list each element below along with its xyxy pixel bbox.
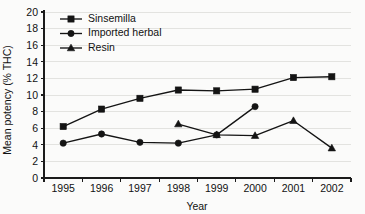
series-layer xyxy=(60,74,336,151)
series-line xyxy=(63,77,332,127)
marker-triangle xyxy=(290,117,297,124)
series-resin xyxy=(175,117,336,151)
y-tick-label: 16 xyxy=(26,39,38,51)
x-tick-label: 1995 xyxy=(52,182,76,194)
legend-label: Sinsemilla xyxy=(88,12,136,24)
x-axis: 19951996199719981999200020012002 xyxy=(44,178,351,194)
marker-square xyxy=(290,74,296,80)
potency-line-chart: 20181614121086420 1995199619971998199920… xyxy=(0,0,365,214)
y-tick-label: 0 xyxy=(32,172,38,184)
marker-triangle xyxy=(175,120,182,127)
marker-square xyxy=(175,87,181,93)
y-tick-label: 18 xyxy=(26,22,38,34)
y-tick-label: 6 xyxy=(32,122,38,134)
legend-entry: Resin xyxy=(60,41,115,53)
y-tick-label: 8 xyxy=(32,105,38,117)
y-tick-label: 14 xyxy=(26,56,38,68)
x-tick-label: 1999 xyxy=(205,182,229,194)
x-axis-title: Year xyxy=(186,200,208,212)
marker-square xyxy=(98,106,104,112)
legend-label: Resin xyxy=(88,41,115,53)
marker-triangle xyxy=(328,144,335,151)
marker-circle xyxy=(68,30,74,36)
x-tick-label: 2000 xyxy=(243,182,267,194)
marker-square xyxy=(214,88,220,94)
y-tick-label: 12 xyxy=(26,72,38,84)
legend-label: Imported herbal xyxy=(88,26,162,38)
marker-circle xyxy=(60,140,66,146)
y-tick-label: 4 xyxy=(32,139,38,151)
y-tick-label: 20 xyxy=(26,6,38,18)
x-tick-label: 1996 xyxy=(90,182,114,194)
marker-square xyxy=(329,74,335,80)
x-tick-label: 1997 xyxy=(128,182,152,194)
marker-circle xyxy=(175,140,181,146)
marker-circle xyxy=(137,139,143,145)
y-axis-title: Mean potency (% THC) xyxy=(1,45,13,155)
x-tick-label: 2002 xyxy=(320,182,344,194)
chart-legend: SinsemillaImported herbalResin xyxy=(60,12,162,53)
legend-entry: Sinsemilla xyxy=(60,12,136,24)
marker-square xyxy=(60,123,66,129)
y-tick-label: 10 xyxy=(26,89,38,101)
x-tick-label: 1998 xyxy=(167,182,191,194)
marker-square xyxy=(137,95,143,101)
marker-square xyxy=(68,16,74,22)
marker-circle xyxy=(98,131,104,137)
series-line xyxy=(63,107,255,144)
legend-entry: Imported herbal xyxy=(60,26,162,38)
marker-square xyxy=(252,86,258,92)
series-imported-herbal xyxy=(60,103,258,146)
x-tick-label: 2001 xyxy=(282,182,306,194)
y-tick-label: 2 xyxy=(32,155,38,167)
y-axis: 20181614121086420 xyxy=(26,6,44,184)
chart-figure: 20181614121086420 1995199619971998199920… xyxy=(0,0,365,214)
marker-circle xyxy=(252,103,258,109)
